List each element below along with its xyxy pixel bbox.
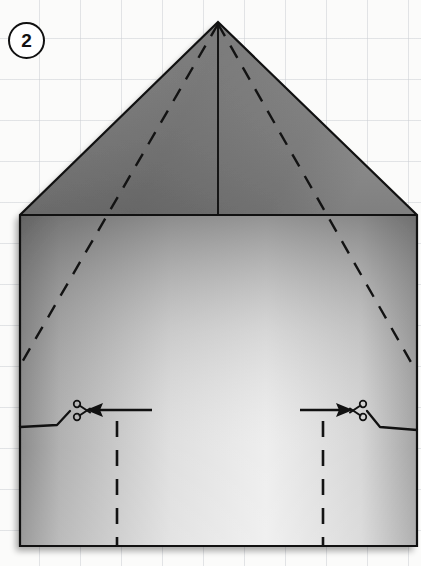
step-number-badge: 2 (8, 22, 45, 59)
diagram-canvas: 2 (0, 0, 421, 566)
paper-figure (0, 0, 421, 566)
step-number-label: 2 (21, 31, 32, 50)
